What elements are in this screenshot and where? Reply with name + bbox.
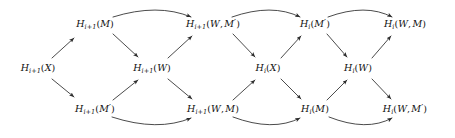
node-top-4: Hi(W,M) [384,19,426,29]
node-bottom-3: Hi(M) [301,104,329,114]
node-middle-4: Hi(W) [344,63,372,73]
node-bottom-4: Hi(W,M′) [383,104,427,114]
node-middle-3: Hi(X) [256,63,281,73]
node-top-3: Hi(M′) [300,19,330,29]
node-middle-2: Hi+1(W) [133,63,171,73]
node-middle-1: Hi+1(X) [21,63,56,73]
diagram-nodes-layer: Hi+1(M) Hi+1(W,M′) Hi(M′) Hi(W,M) Hi+1(X… [0,0,455,138]
node-top-2: Hi+1(W,M′) [186,19,240,29]
node-bottom-1: Hi+1(M′) [75,104,115,114]
node-top-1: Hi+1(M) [76,19,114,29]
node-bottom-2: Hi+1(W,M) [187,104,239,114]
braid-diagram: Hi+1(M) Hi+1(W,M′) Hi(M′) Hi(W,M) Hi+1(X… [0,0,455,138]
